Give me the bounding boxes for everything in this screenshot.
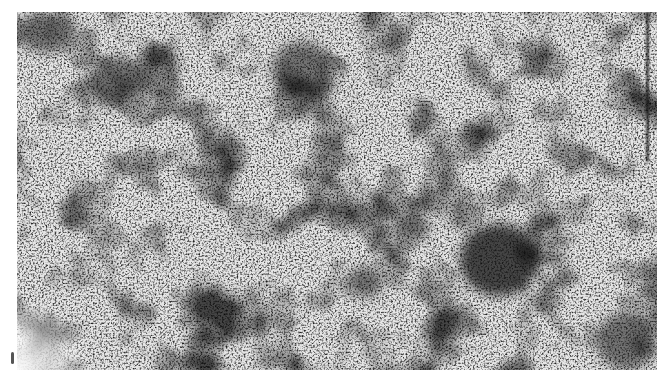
dark-patch <box>272 42 332 97</box>
dark-patch <box>347 267 383 297</box>
dark-patch <box>87 57 147 107</box>
dark-patch <box>17 12 77 52</box>
micrograph-image <box>17 12 657 370</box>
scan-mark <box>11 352 14 364</box>
dark-patch <box>597 312 657 370</box>
faded-corner <box>17 300 87 370</box>
dark-patch <box>397 212 429 242</box>
right-edge-line <box>646 12 649 162</box>
large-dark-region <box>460 224 538 296</box>
